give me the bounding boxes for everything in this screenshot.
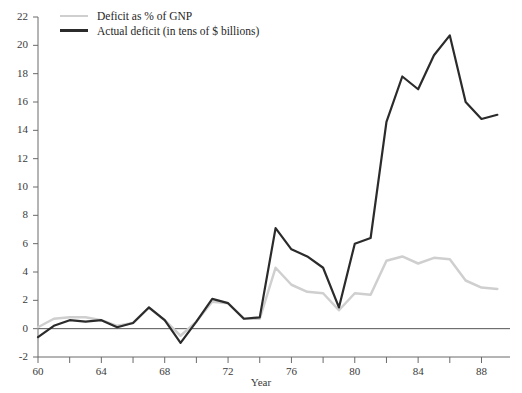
- axis-lines: [38, 17, 510, 357]
- y-tick-label: 2: [4, 293, 28, 305]
- tick-marks: [33, 17, 481, 363]
- chart-legend: Deficit as % of GNP Actual deficit (in t…: [60, 8, 259, 38]
- y-tick-label: 22: [4, 10, 28, 22]
- series-paths: [38, 35, 497, 342]
- legend-label-actual-deficit: Actual deficit (in tens of $ billions): [97, 25, 259, 37]
- plot-area: [0, 0, 522, 393]
- y-tick-label: 8: [4, 208, 28, 220]
- y-tick-label: 12: [4, 152, 28, 164]
- legend-swatch-actual-deficit-icon: [60, 29, 88, 32]
- legend-label-gnp: Deficit as % of GNP: [97, 10, 192, 22]
- y-tick-label: 16: [4, 95, 28, 107]
- legend-item-actual-deficit: Actual deficit (in tens of $ billions): [60, 23, 259, 38]
- y-tick-label: 14: [4, 123, 28, 135]
- legend-swatch-gnp-icon: [60, 15, 88, 17]
- y-tick-label: 0: [4, 322, 28, 334]
- y-tick-label: 18: [4, 67, 28, 79]
- y-tick-label: 10: [4, 180, 28, 192]
- legend-item-gnp: Deficit as % of GNP: [60, 8, 259, 23]
- y-tick-label: 20: [4, 38, 28, 50]
- y-tick-label: 6: [4, 237, 28, 249]
- x-axis-title: Year: [0, 376, 522, 388]
- y-tick-label: -2: [4, 350, 28, 362]
- deficit-line-chart: -20246810121416182022 6064687276808488 Y…: [0, 0, 522, 393]
- y-tick-label: 4: [4, 265, 28, 277]
